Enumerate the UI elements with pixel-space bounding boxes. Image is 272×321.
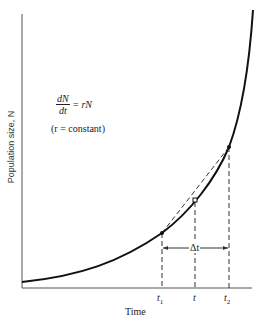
t2-point (227, 145, 231, 149)
growth-curve (22, 10, 253, 282)
arrowhead-left-icon (163, 246, 168, 250)
tick-t1: t1 (157, 292, 163, 306)
x-axis-label: Time (125, 306, 146, 317)
y-axis-label: Population size, N (6, 102, 16, 192)
tick-t2: t2 (224, 292, 230, 306)
t1-point (160, 231, 164, 235)
eq-rhs: = rN (72, 99, 92, 110)
delta-t-label: Δt (189, 242, 200, 253)
chart-canvas (0, 0, 272, 321)
equation-condition: (r = constant) (51, 123, 105, 134)
eq-denominator: dt (56, 105, 70, 116)
arrowhead-right-icon (223, 246, 228, 250)
t-point (193, 198, 197, 202)
equation: dN dt = rN (56, 93, 92, 116)
derivative-fraction: dN dt (56, 93, 70, 116)
tick-t: t (193, 292, 196, 303)
eq-numerator: dN (56, 93, 70, 105)
